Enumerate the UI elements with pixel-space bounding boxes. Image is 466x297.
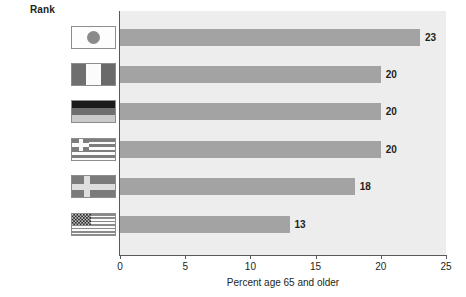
greece-cross-canton bbox=[72, 139, 89, 152]
x-tick-label-15: 15 bbox=[310, 261, 321, 272]
flag-germany-icon bbox=[71, 100, 116, 123]
bar-italy bbox=[120, 66, 381, 83]
x-axis-title: Percent age 65 and older bbox=[120, 277, 446, 288]
japan-disc bbox=[87, 31, 100, 44]
bar-value-label-germany: 20 bbox=[386, 103, 397, 120]
bar-value-label-japan: 23 bbox=[425, 29, 436, 46]
bar-japan bbox=[120, 29, 420, 46]
country-row-greece bbox=[0, 134, 116, 164]
usa-star-canton bbox=[72, 214, 91, 226]
x-tick-mark-0 bbox=[120, 255, 121, 259]
bar-value-label-sweden: 18 bbox=[360, 178, 371, 195]
x-tick-mark-20 bbox=[381, 255, 382, 259]
x-tick-label-10: 10 bbox=[245, 261, 256, 272]
sweden-cross-horizontal bbox=[72, 184, 115, 190]
bar-usa bbox=[120, 216, 290, 233]
flag-japan-icon bbox=[71, 26, 116, 49]
country-row-japan bbox=[0, 22, 116, 52]
country-row-sweden bbox=[0, 172, 116, 202]
x-tick-mark-5 bbox=[185, 255, 186, 259]
bar-germany bbox=[120, 103, 381, 120]
bar-value-label-italy: 20 bbox=[386, 66, 397, 83]
x-tick-label-5: 5 bbox=[182, 261, 188, 272]
flag-sweden-icon bbox=[71, 175, 116, 198]
bar-sweden bbox=[120, 178, 355, 195]
flag-italy-icon bbox=[71, 63, 116, 86]
chart-figure: { "header": { "rank_label": "Rank" }, "c… bbox=[0, 0, 466, 297]
x-tick-label-0: 0 bbox=[117, 261, 123, 272]
rank-column-header: Rank bbox=[30, 4, 55, 15]
country-row-usa bbox=[0, 209, 116, 239]
flag-usa-icon bbox=[71, 213, 116, 236]
x-tick-mark-10 bbox=[250, 255, 251, 259]
bar-value-label-greece: 20 bbox=[386, 141, 397, 158]
x-tick-label-20: 20 bbox=[375, 261, 386, 272]
x-tick-label-25: 25 bbox=[440, 261, 451, 272]
country-row-germany bbox=[0, 97, 116, 127]
x-tick-mark-15 bbox=[316, 255, 317, 259]
x-tick-mark-25 bbox=[446, 255, 447, 259]
country-row-italy bbox=[0, 59, 116, 89]
usa-stars bbox=[72, 214, 91, 226]
x-axis-line bbox=[119, 255, 447, 256]
flag-greece-icon bbox=[71, 138, 116, 161]
bar-value-label-usa: 13 bbox=[295, 216, 306, 233]
bar-greece bbox=[120, 141, 381, 158]
